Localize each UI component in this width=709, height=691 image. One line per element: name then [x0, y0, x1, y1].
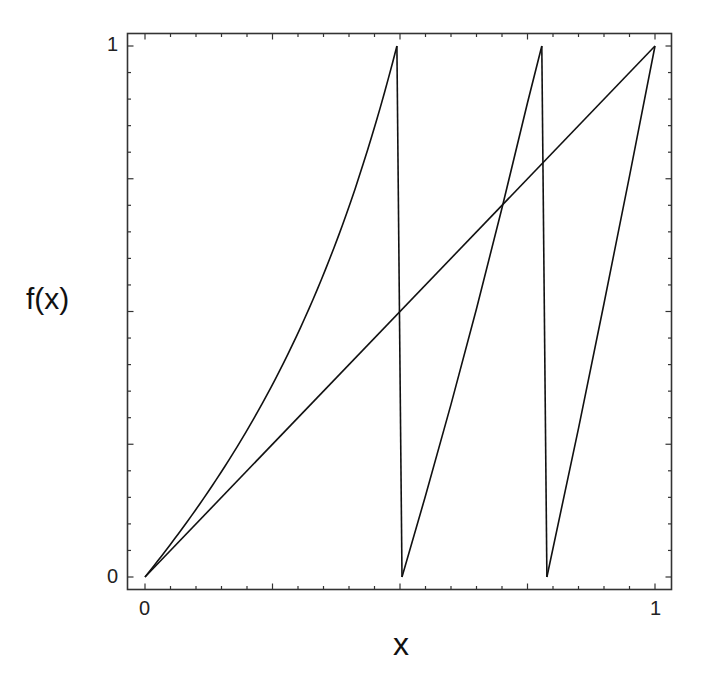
y-axis-label: f(x) [26, 282, 69, 316]
curve-drop-1 [397, 46, 402, 577]
curve-branch-2 [402, 46, 542, 577]
x-tick-label-max: 1 [650, 597, 661, 620]
curve-drop-2 [542, 46, 547, 577]
x-tick-label-min: 0 [139, 597, 150, 620]
y-tick-label-max: 1 [107, 33, 118, 56]
curves [145, 46, 655, 577]
curve-branch-1 [145, 46, 397, 577]
y-tick-label-min: 0 [107, 565, 118, 588]
curve-branch-3 [547, 46, 655, 577]
x-axis-label: x [393, 626, 409, 663]
